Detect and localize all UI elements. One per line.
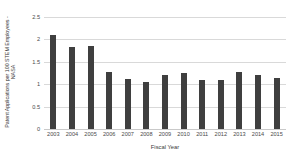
bar[interactable]: [199, 80, 205, 129]
y-tick-label: 0.5: [32, 104, 40, 110]
x-tick-label: 2005: [81, 131, 100, 137]
y-tick-label: 0: [37, 126, 40, 132]
bar[interactable]: [255, 75, 261, 129]
bar-slot: [137, 17, 156, 129]
x-axis-title: Fiscal Year: [44, 144, 286, 150]
y-axis-title: Patent Applications per 100 STEM Employe…: [3, 13, 17, 131]
bar-slot: [211, 17, 230, 129]
bar-slot: [63, 17, 82, 129]
bar[interactable]: [218, 80, 224, 129]
bar[interactable]: [69, 47, 75, 129]
bar-slot: [193, 17, 212, 129]
bar[interactable]: [181, 73, 187, 129]
bar-slot: [81, 17, 100, 129]
bar[interactable]: [50, 35, 56, 129]
bar-slot: [249, 17, 268, 129]
bar-slot: [156, 17, 175, 129]
bar-slot: [267, 17, 286, 129]
y-tick-label: 1: [37, 81, 40, 87]
bar-slot: [44, 17, 63, 129]
x-tick-label: 2003: [44, 131, 63, 137]
bar-series: [44, 17, 286, 129]
bar-slot: [230, 17, 249, 129]
x-axis-tick-labels: 2003200420052006200720082009201020112012…: [44, 131, 286, 141]
x-tick-label: 2010: [174, 131, 193, 137]
x-tick-label: 2007: [118, 131, 137, 137]
x-tick-label: 2015: [267, 131, 286, 137]
x-tick-label: 2006: [100, 131, 119, 137]
x-tick-label: 2004: [63, 131, 82, 137]
bar-slot: [174, 17, 193, 129]
bar[interactable]: [274, 78, 280, 129]
x-tick-label: 2014: [249, 131, 268, 137]
x-tick-label: 2012: [211, 131, 230, 137]
bar[interactable]: [106, 72, 112, 129]
bar-slot: [100, 17, 119, 129]
y-tick-label: 1.5: [32, 59, 40, 65]
gridline: [44, 129, 286, 130]
bar[interactable]: [125, 79, 131, 129]
bar-chart: Patent Applications per 100 STEM Employe…: [0, 0, 290, 162]
bar-slot: [118, 17, 137, 129]
bar[interactable]: [162, 75, 168, 129]
bar[interactable]: [88, 46, 94, 129]
x-tick-label: 2009: [156, 131, 175, 137]
x-tick-label: 2008: [137, 131, 156, 137]
plot-area: 00.511.522.5: [44, 17, 286, 129]
x-tick-label: 2011: [193, 131, 212, 137]
x-tick-label: 2013: [230, 131, 249, 137]
bar[interactable]: [143, 82, 149, 129]
bar[interactable]: [236, 72, 242, 129]
y-tick-label: 2: [37, 36, 40, 42]
y-tick-label: 2.5: [32, 14, 40, 20]
